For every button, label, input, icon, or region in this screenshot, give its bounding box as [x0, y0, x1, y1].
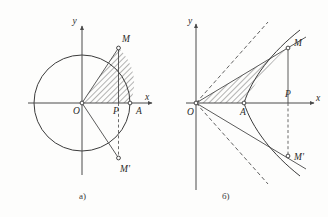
panel-b-label-P: P	[284, 89, 291, 99]
panel-b-label-M-prime: M'	[293, 152, 305, 162]
panel-a-label-A: A	[135, 106, 142, 116]
panel-a-label-P: P	[112, 106, 119, 116]
panel-a-point-O	[80, 101, 84, 105]
panel-a-caption: a)	[79, 191, 86, 201]
panel-b-label-O: O	[187, 107, 194, 117]
panel-a-point-M	[117, 46, 121, 50]
panel-b-x-axis-label: x	[315, 93, 321, 103]
math-figure-svg: y x O A P M M' a)	[0, 0, 328, 217]
panel-b-caption: б)	[222, 191, 230, 201]
panel-a-label-O: O	[73, 106, 80, 116]
panel-a-point-M-prime	[117, 156, 121, 160]
panel-b-point-M-prime	[286, 154, 290, 158]
panel-a: y x O A P M M' a)	[28, 16, 152, 201]
panel-b-label-A: A	[239, 107, 246, 117]
figure-root: y x O A P M M' a)	[0, 0, 328, 217]
panel-a-x-axis-label: x	[144, 92, 150, 102]
panel-a-point-A	[128, 101, 132, 105]
panel-b-label-M: M	[293, 38, 303, 48]
panel-b-point-M	[286, 46, 290, 50]
panel-a-label-M-prime: M'	[119, 164, 131, 174]
panel-b-ray-OM-prime	[196, 103, 306, 169]
panel-b-point-O	[194, 101, 198, 105]
panel-b-y-axis-label: y	[187, 16, 193, 26]
panel-b-point-A	[242, 101, 246, 105]
panel-b-asymptote-lower	[196, 103, 268, 184]
panel-b: y x O A P M M' б)	[186, 16, 321, 201]
panel-a-label-M: M	[121, 34, 131, 44]
panel-a-y-axis-label: y	[72, 16, 78, 26]
